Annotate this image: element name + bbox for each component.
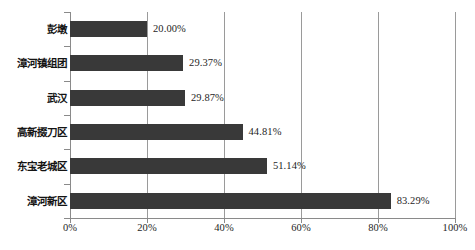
y-axis-label: 高新掇刀区 bbox=[1, 124, 67, 140]
bar bbox=[70, 21, 147, 37]
bar-value-label: 29.37% bbox=[189, 55, 222, 71]
bar-chart: 彭墩漳河镇组团武汉高新掇刀区东宝老城区漳河新区 20.00%29.37%29.8… bbox=[0, 0, 475, 250]
bar bbox=[70, 193, 391, 209]
y-axis-label: 东宝老城区 bbox=[1, 158, 67, 174]
bar-row: 51.14% bbox=[70, 149, 455, 183]
bar-row: 20.00% bbox=[70, 12, 455, 46]
y-axis-label: 彭墩 bbox=[1, 21, 67, 37]
y-axis-label: 武汉 bbox=[1, 90, 67, 106]
x-axis-tick-label: 40% bbox=[214, 222, 234, 233]
bar-value-label: 83.29% bbox=[397, 193, 430, 209]
x-axis-tick-labels: 0%20%40%60%80%100% bbox=[0, 222, 475, 240]
bar bbox=[70, 55, 183, 71]
y-axis-label: 漳河新区 bbox=[1, 193, 67, 209]
bar-value-label: 29.87% bbox=[191, 90, 224, 106]
x-axis-tick-label: 60% bbox=[291, 222, 311, 233]
bar-row: 44.81% bbox=[70, 115, 455, 149]
x-axis-line bbox=[70, 218, 456, 219]
y-axis-label: 漳河镇组团 bbox=[1, 55, 67, 71]
bar bbox=[70, 124, 243, 140]
y-axis-category-labels: 彭墩漳河镇组团武汉高新掇刀区东宝老城区漳河新区 bbox=[0, 12, 67, 218]
x-axis-tick-label: 20% bbox=[137, 222, 157, 233]
x-axis-tick-label: 80% bbox=[368, 222, 388, 233]
bar-row: 29.37% bbox=[70, 46, 455, 80]
bar bbox=[70, 90, 185, 106]
bar-value-label: 20.00% bbox=[153, 21, 186, 37]
bar-value-label: 51.14% bbox=[273, 158, 306, 174]
bar-row: 29.87% bbox=[70, 81, 455, 115]
gridline-100% bbox=[455, 12, 456, 218]
bar-value-label: 44.81% bbox=[249, 124, 282, 140]
x-axis-tick-label: 0% bbox=[63, 222, 77, 233]
bar-row: 83.29% bbox=[70, 184, 455, 218]
plot-area: 20.00%29.37%29.87%44.81%51.14%83.29% bbox=[70, 12, 455, 218]
x-axis-tick-label: 100% bbox=[443, 222, 468, 233]
bar bbox=[70, 158, 267, 174]
